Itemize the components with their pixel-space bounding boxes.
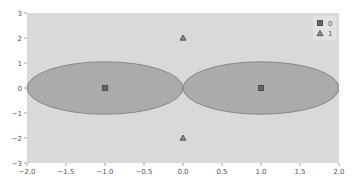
square-marker: [259, 86, 264, 91]
x-axis-ticks: −2.0−1.5−1.0−0.50.00.51.01.52.0: [19, 163, 345, 176]
x-tick-label: 1.5: [294, 168, 305, 176]
x-tick-label: −0.5: [136, 168, 153, 176]
y-tick-label: 0: [18, 85, 22, 93]
legend-label: 1: [328, 30, 332, 38]
y-tick-label: 2: [18, 35, 22, 43]
legend-label: 0: [328, 20, 332, 28]
legend-square-icon: [318, 21, 323, 26]
y-tick-label: 3: [18, 10, 22, 18]
x-tick-label: 2.0: [333, 168, 344, 176]
x-tick-label: −2.0: [19, 168, 36, 176]
x-tick-label: 1.0: [255, 168, 266, 176]
chart: −2.0−1.5−1.0−0.50.00.51.01.52.0 −3−2−101…: [0, 0, 353, 185]
y-axis-ticks: −3−2−10123: [12, 10, 27, 168]
y-tick-label: 1: [18, 60, 22, 68]
legend-box: [313, 16, 336, 40]
x-tick-label: 0.0: [177, 168, 188, 176]
y-tick-label: −2: [12, 135, 22, 143]
x-tick-label: −1.0: [97, 168, 114, 176]
y-tick-label: −3: [12, 160, 22, 168]
square-marker: [103, 86, 108, 91]
x-tick-label: −1.5: [58, 168, 75, 176]
y-tick-label: −1: [12, 110, 22, 118]
x-tick-label: 0.5: [216, 168, 227, 176]
legend: 01: [313, 16, 336, 40]
